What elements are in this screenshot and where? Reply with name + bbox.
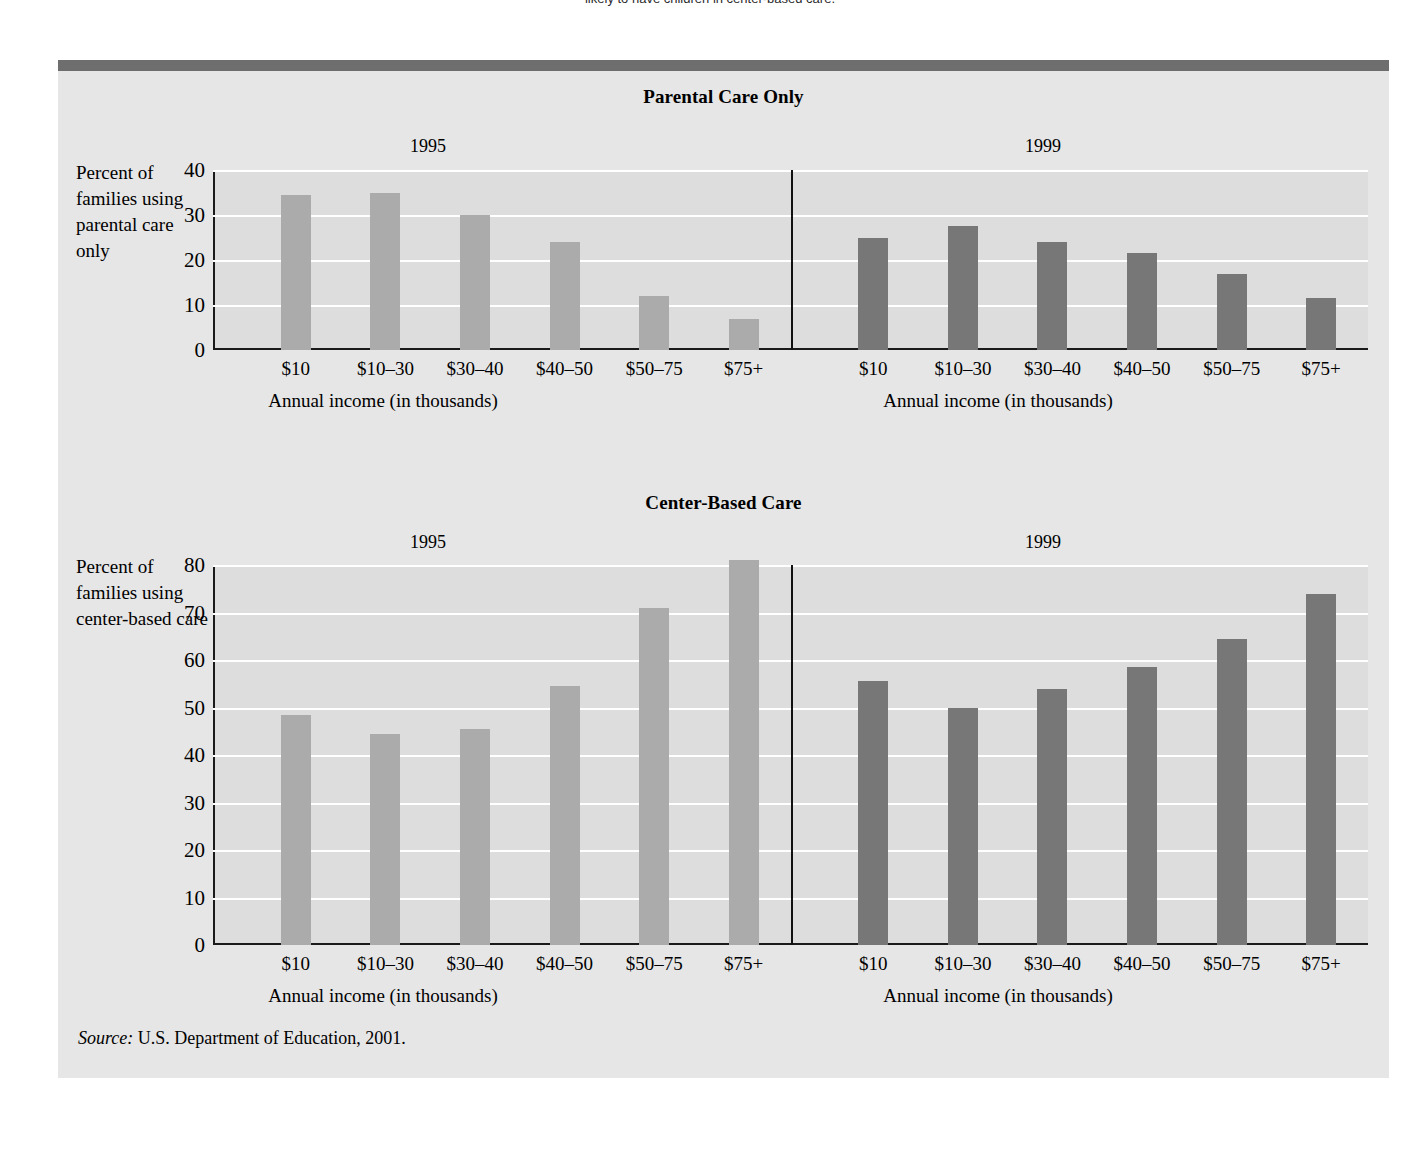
bar <box>729 560 759 945</box>
y-tick-label: 50 <box>184 695 205 720</box>
y-tick-label: 10 <box>184 885 205 910</box>
x-axis-caption-parental-1999: Annual income (in thousands) <box>788 390 1208 412</box>
bar <box>639 296 669 350</box>
y-tick-label: 20 <box>184 838 205 863</box>
x-tick-label: $40–50 <box>1114 953 1171 975</box>
x-tick-label: $30–40 <box>1024 358 1081 380</box>
year-label-1999-parental: 1999 <box>963 136 1123 157</box>
plot-area-center: 01020304050607080$10$10–30$30–40$40–50$5… <box>213 565 1368 945</box>
bar <box>1037 689 1067 946</box>
bar <box>460 215 490 350</box>
x-tick-label: $75+ <box>1302 953 1341 975</box>
bar <box>729 319 759 351</box>
x-tick-label: $10 <box>282 953 311 975</box>
year-label-1995-parental: 1995 <box>348 136 508 157</box>
x-tick-label: $50–75 <box>1203 358 1260 380</box>
x-tick-label: $50–75 <box>626 358 683 380</box>
x-tick-label: $10 <box>859 953 888 975</box>
bar <box>1217 639 1247 945</box>
bar <box>281 195 311 350</box>
y-tick-label: 20 <box>184 248 205 273</box>
bar <box>948 708 978 946</box>
x-tick-label: $30–40 <box>1024 953 1081 975</box>
bar <box>1127 667 1157 945</box>
panel-divider-parental <box>791 170 793 350</box>
x-tick-label: $40–50 <box>536 358 593 380</box>
figure-top-rule <box>58 60 1389 71</box>
source-label: Source: <box>78 1028 133 1048</box>
y-tick-label: 0 <box>195 338 206 363</box>
x-axis-caption-center-1999: Annual income (in thousands) <box>788 985 1208 1007</box>
bar <box>639 608 669 945</box>
top-caption: likely to have children in center-based … <box>0 0 1420 6</box>
bar <box>370 193 400 351</box>
y-tick-label: 70 <box>184 600 205 625</box>
source-note: Source: U.S. Department of Education, 20… <box>78 1028 406 1049</box>
chart-title-center: Center-Based Care <box>58 492 1389 514</box>
x-tick-label: $75+ <box>1302 358 1341 380</box>
bar <box>550 242 580 350</box>
y-tick-label: 40 <box>184 158 205 183</box>
bar <box>370 734 400 945</box>
y-tick-label: 30 <box>184 790 205 815</box>
figure-panel: Parental Care Only 1995 1999 Percent of … <box>58 60 1389 1078</box>
bar <box>858 681 888 945</box>
y-tick-label: 40 <box>184 743 205 768</box>
top-caption-text: likely to have children in center-based … <box>585 0 835 6</box>
x-axis-caption-parental-1995: Annual income (in thousands) <box>173 390 593 412</box>
x-tick-label: $10–30 <box>357 358 414 380</box>
x-tick-label: $10 <box>282 358 311 380</box>
x-tick-label: $30–40 <box>446 358 503 380</box>
y-tick-label: 80 <box>184 553 205 578</box>
chart-title-parental: Parental Care Only <box>58 86 1389 108</box>
bar <box>460 729 490 945</box>
x-tick-label: $30–40 <box>446 953 503 975</box>
x-tick-label: $75+ <box>724 953 763 975</box>
bar <box>1217 274 1247 351</box>
y-tick-label: 60 <box>184 648 205 673</box>
x-tick-label: $75+ <box>724 358 763 380</box>
x-tick-label: $40–50 <box>1114 358 1171 380</box>
bar <box>1306 594 1336 946</box>
bar <box>1037 242 1067 350</box>
source-text: U.S. Department of Education, 2001. <box>133 1028 405 1048</box>
year-label-1999-center: 1999 <box>963 532 1123 553</box>
y-tick-label: 30 <box>184 203 205 228</box>
bar <box>1306 298 1336 350</box>
plot-area-parental: 010203040$10$10–30$30–40$40–50$50–75$75+… <box>213 170 1368 350</box>
year-label-1995-center: 1995 <box>348 532 508 553</box>
x-tick-label: $10–30 <box>934 953 991 975</box>
bar <box>948 226 978 350</box>
x-axis-caption-center-1995: Annual income (in thousands) <box>173 985 593 1007</box>
x-tick-label: $10 <box>859 358 888 380</box>
bar <box>858 238 888 351</box>
bar <box>281 715 311 945</box>
y-tick-label: 0 <box>195 933 206 958</box>
x-tick-label: $50–75 <box>1203 953 1260 975</box>
bar <box>1127 253 1157 350</box>
panel-divider-center <box>791 565 793 945</box>
x-tick-label: $50–75 <box>626 953 683 975</box>
bar <box>550 686 580 945</box>
x-tick-label: $40–50 <box>536 953 593 975</box>
x-tick-label: $10–30 <box>357 953 414 975</box>
x-tick-label: $10–30 <box>934 358 991 380</box>
y-tick-label: 10 <box>184 293 205 318</box>
